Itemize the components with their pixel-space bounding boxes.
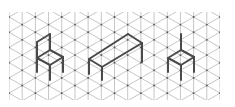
isometric-diagram xyxy=(0,0,235,107)
chair-right xyxy=(168,34,194,80)
furniture-drawings xyxy=(0,0,235,107)
chair-left xyxy=(37,34,63,80)
bench xyxy=(89,34,142,80)
